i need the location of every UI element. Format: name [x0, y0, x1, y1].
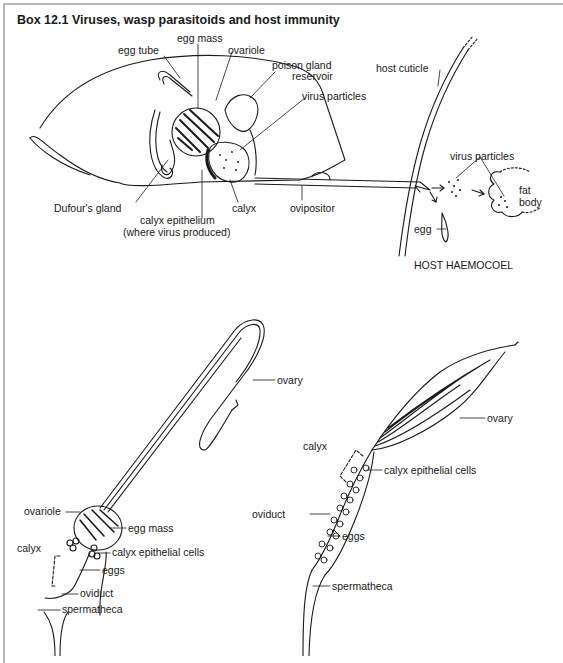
calyx-drawing: [207, 95, 258, 183]
label-bl-eggs: eggs: [102, 564, 125, 576]
fat-body-drawing: [489, 172, 522, 217]
label-br-oviduct: oviduct: [252, 508, 285, 520]
label-br-spermatheca: spermatheca: [332, 580, 393, 592]
label-bl-ovary: ovary: [277, 374, 303, 386]
label-bl-calyx-epithelial-cells: calyx epithelial cells: [112, 546, 204, 558]
label-egg-tube: egg tube: [118, 44, 159, 56]
label-bl-calyx: calyx: [17, 542, 42, 554]
label-dufours-gland: Dufour's gland: [54, 202, 122, 214]
label-virus-particles-wasp: virus particles: [302, 90, 366, 102]
label-fat-body: body: [519, 196, 543, 208]
label-br-ovary: ovary: [487, 412, 513, 424]
egg-mass-drawing: [172, 108, 220, 156]
label-calyx-epithelium-note: (where virus produced): [123, 226, 230, 238]
host-arrows: [430, 185, 484, 202]
label-egg-mass: egg mass: [177, 32, 223, 44]
label-bl-oviduct: oviduct: [80, 587, 113, 599]
label-host-cuticle: host cuticle: [376, 62, 429, 74]
label-host-haemocoel: HOST HAEMOCOEL: [414, 259, 513, 271]
virus-dots-host: [448, 179, 508, 208]
virus-dots-calyx: [219, 151, 239, 171]
label-bl-spermatheca: spermatheca: [62, 603, 123, 615]
label-bl-egg-mass: egg mass: [128, 522, 174, 534]
host-egg-drawing: [442, 213, 448, 242]
label-fat: fat: [519, 184, 531, 196]
bottom-right-ovary: [303, 342, 518, 656]
bottom-left-leader-lines: [38, 380, 275, 610]
label-bl-ovariole: ovariole: [24, 505, 61, 517]
label-br-calyx: calyx: [303, 440, 328, 452]
label-virus-particles-host: virus particles: [450, 150, 514, 162]
label-ovipositor: ovipositor: [290, 202, 335, 214]
label-egg: egg: [414, 223, 432, 235]
label-calyx-epithelium: calyx epithelium: [140, 214, 215, 226]
ovipositor-drawing: [255, 173, 430, 192]
label-br-calyx-epithelial-cells: calyx epithelial cells: [384, 464, 476, 476]
label-calyx: calyx: [232, 202, 257, 214]
label-ovariole: ovariole: [228, 44, 265, 56]
label-poison-gland-reservoir: reservoir: [292, 70, 333, 82]
label-br-eggs: eggs: [342, 530, 365, 542]
